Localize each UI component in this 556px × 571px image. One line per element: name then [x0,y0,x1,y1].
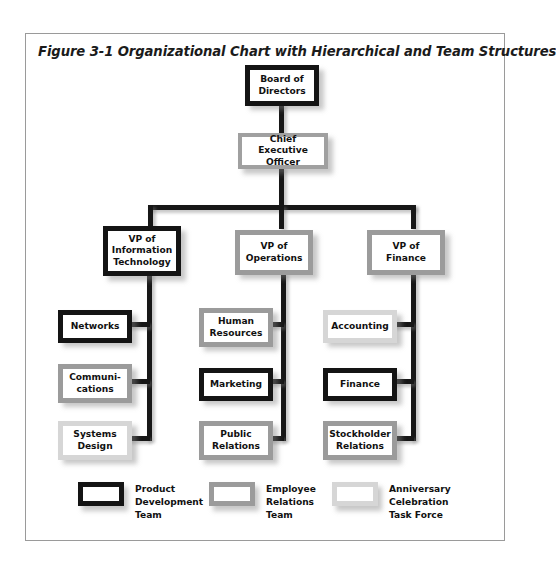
spine-vp-ops [281,273,286,441]
node-marketing[interactable]: Marketing [199,368,273,401]
node-label: VP ofInformationTechnology [110,234,174,268]
node-systems-design[interactable]: SystemsDesign [58,421,132,460]
legend-item-product-development-team: ProductDevelopmentTeam [78,482,203,522]
node-communications[interactable]: Communi-cations [58,364,132,403]
node-label: VP ofFinance [384,241,428,264]
node-board-of-directors[interactable]: Board ofDirectors [245,65,319,106]
legend-swatch-anniversary-celebration-task-force [332,482,378,506]
node-networks[interactable]: Networks [58,310,132,343]
node-public-relations[interactable]: PublicRelations [199,421,273,460]
node-label: Networks [69,321,122,332]
node-label: Accounting [329,321,390,332]
spine-vp-it [147,273,152,441]
legend-swatch-product-development-team [78,482,124,506]
node-label: VP ofOperations [244,241,305,264]
node-label: SystemsDesign [71,429,118,452]
legend-item-employee-relations-team: EmployeeRelationsTeam [209,482,316,522]
node-label: HumanResources [208,316,265,339]
connector-bus-to-vp-ops [279,205,284,229]
node-label: Marketing [208,379,264,390]
legend-label: AnniversaryCelebrationTask Force [389,482,451,522]
node-label: Finance [338,379,382,390]
legend-label: EmployeeRelationsTeam [266,482,316,522]
node-label: PublicRelations [210,429,262,452]
node-chief-executive-officer[interactable]: ChiefExecutive Officer [238,133,328,169]
node-label: StockholderRelations [327,429,393,452]
node-accounting[interactable]: Accounting [323,310,397,343]
node-label: Communi-cations [67,372,123,395]
legend-item-anniversary-celebration-task-force: AnniversaryCelebrationTask Force [332,482,451,522]
node-label: Board ofDirectors [256,74,307,97]
node-finance[interactable]: Finance [323,368,397,401]
node-vp-operations[interactable]: VP ofOperations [235,230,313,275]
node-label: ChiefExecutive Officer [242,134,324,168]
legend-label: ProductDevelopmentTeam [135,482,203,522]
node-vp-information-technology[interactable]: VP ofInformationTechnology [103,226,181,276]
legend-swatch-employee-relations-team [209,482,255,506]
node-human-resources[interactable]: HumanResources [199,308,273,347]
node-vp-finance[interactable]: VP ofFinance [367,230,445,275]
node-stockholder-relations[interactable]: StockholderRelations [323,421,397,460]
connector-bus-to-vp-fin [411,205,416,229]
spine-vp-fin [411,273,416,441]
